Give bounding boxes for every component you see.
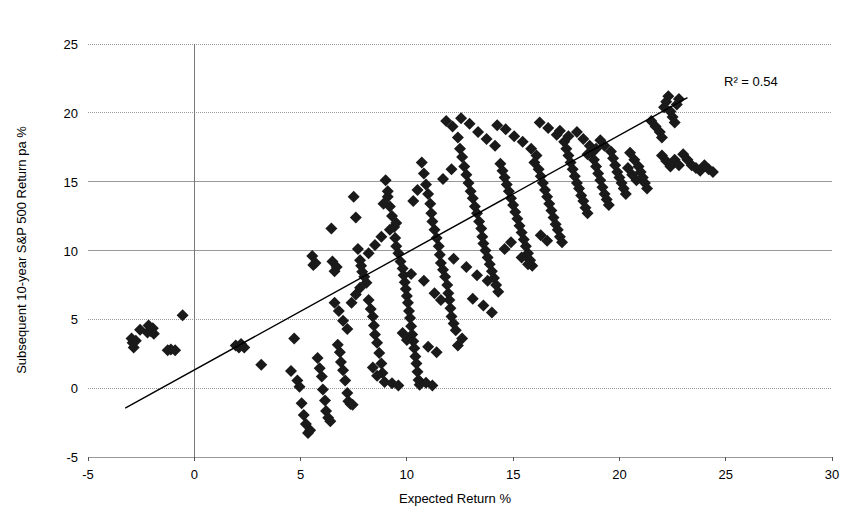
y-axis-title: Subsequent 10-year S&P 500 Return pa % xyxy=(14,126,29,374)
x-tick-label: -5 xyxy=(82,467,94,482)
x-tick-label: 0 xyxy=(191,467,198,482)
y-tick-label: -5 xyxy=(66,450,78,465)
y-tick-label: 20 xyxy=(64,106,78,121)
x-tick-label: 30 xyxy=(825,467,839,482)
x-tick-label: 20 xyxy=(612,467,626,482)
x-axis-title: Expected Return % xyxy=(399,491,511,506)
x-tick-label: 15 xyxy=(506,467,520,482)
y-tick-label: 25 xyxy=(64,37,78,52)
y-tick-label: 0 xyxy=(71,381,78,396)
x-tick-label: 5 xyxy=(297,467,304,482)
x-tick-label: 25 xyxy=(718,467,732,482)
y-tick-label: 5 xyxy=(71,312,78,327)
chart-canvas: -5051015202530 -50510152025 Expected Ret… xyxy=(0,0,863,528)
y-tick-label: 15 xyxy=(64,175,78,190)
r-squared-annotation: R² = 0.54 xyxy=(724,74,778,89)
y-tick-label: 10 xyxy=(64,244,78,259)
x-tick-label: 10 xyxy=(400,467,414,482)
scatter-chart-figure: -5051015202530 -50510152025 Expected Ret… xyxy=(0,0,863,528)
